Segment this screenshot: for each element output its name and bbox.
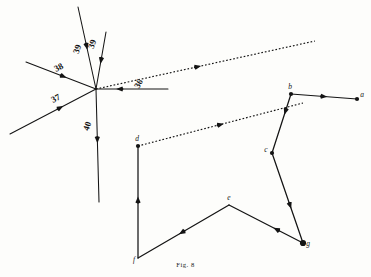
bearing-arrow-40-5 xyxy=(95,136,100,143)
figure-caption: Fig. 8 xyxy=(0,259,371,269)
station-dot-c xyxy=(270,151,274,155)
bearing-line-40-5 xyxy=(96,89,99,202)
traverse-segment-bc xyxy=(272,94,291,153)
bearing-label-39-4: 39 xyxy=(86,38,98,50)
station-label-c: c xyxy=(264,145,268,154)
station-dot-b xyxy=(289,92,293,96)
station-label-g: g xyxy=(306,239,310,248)
sight-line-upper-sight-line xyxy=(96,41,315,89)
figure-labels: 363738393940abcdefg xyxy=(49,38,364,264)
station-label-a: a xyxy=(360,90,364,99)
bearing-arrow-36-0 xyxy=(116,86,123,91)
station-markers xyxy=(136,92,359,246)
bearing-arrow-38-2 xyxy=(60,73,67,78)
bearing-label-37-1: 37 xyxy=(49,92,62,105)
traverse-arrow-bc xyxy=(284,108,289,115)
sight-line-arrow-upper-sight-line xyxy=(194,65,201,70)
bearing-label-38-2: 38 xyxy=(52,61,65,74)
station-label-e: e xyxy=(227,193,231,202)
station-dot-d xyxy=(136,144,140,148)
numbered-bearing-lines xyxy=(10,7,168,202)
figure-caption-text: Fig. 8 xyxy=(176,261,194,268)
traverse-arrow-ba xyxy=(320,94,327,99)
traverse-arrow-fd xyxy=(135,196,140,203)
bearing-label-40-5: 40 xyxy=(81,120,93,132)
bearing-arrow-39-4 xyxy=(99,57,104,64)
traverse-arrow-ge xyxy=(273,228,280,233)
station-label-b: b xyxy=(288,82,292,91)
traverse-arrow-cg xyxy=(287,202,292,209)
figure-container: 363738393940abcdefg Fig. 8 xyxy=(0,0,371,277)
traverse-arrow-ef xyxy=(179,229,186,234)
bearing-label-39-3: 39 xyxy=(71,43,83,55)
dotted-sight-lines xyxy=(96,41,315,146)
bearing-arrow-37-1 xyxy=(57,106,64,111)
station-dot-a xyxy=(355,97,359,101)
station-label-d: d xyxy=(135,134,139,143)
figure-drawing: 363738393940abcdefg xyxy=(0,0,371,277)
